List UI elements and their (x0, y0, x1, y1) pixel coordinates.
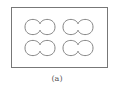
figure-caption: (a) (0, 74, 114, 83)
peanut-shapes-group (25, 19, 93, 55)
peanut-shape (25, 19, 55, 34)
peanut-shape (63, 40, 93, 55)
outer-frame (12, 8, 108, 68)
peanut-shape (25, 40, 55, 55)
peanut-shape (63, 19, 93, 34)
